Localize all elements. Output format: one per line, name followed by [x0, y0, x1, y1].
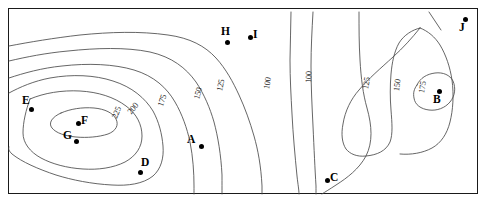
point-D-dot	[138, 170, 143, 175]
point-B-label: B	[433, 94, 441, 106]
point-G-label: G	[63, 130, 72, 142]
contour-100-valley-right	[311, 12, 316, 194]
point-J-label: J	[459, 22, 465, 34]
contour-map: 225 200 175 150 125 100 100 125 150 175 …	[0, 0, 487, 209]
point-E-dot	[29, 107, 34, 112]
contour-label-125-east: 125	[360, 76, 372, 89]
contour-125-right	[322, 12, 371, 194]
point-G-dot	[74, 139, 79, 144]
point-F-label: F	[81, 115, 88, 127]
contour-200-left	[23, 91, 142, 169]
point-H-label: H	[221, 26, 230, 38]
point-C-label: C	[330, 172, 338, 184]
point-A-label: A	[187, 134, 195, 146]
contour-150-left	[9, 64, 194, 194]
contour-lines-group	[0, 0, 487, 209]
point-D-label: D	[141, 157, 149, 169]
point-E-label: E	[22, 95, 30, 107]
contour-150-right	[342, 28, 420, 156]
point-A-dot	[199, 144, 204, 149]
contour-100-left	[9, 32, 262, 194]
contour-label-175-east: 175	[416, 80, 428, 93]
contour-100-valley-left	[290, 12, 299, 194]
point-I-label: I	[253, 29, 257, 41]
contour-label-100-mid: 100	[303, 71, 313, 83]
contour-125-left	[9, 49, 222, 195]
contour-label-100-west: 100	[261, 76, 273, 89]
contour-150-right-flank	[400, 28, 453, 154]
contour-upper-right-arc	[429, 12, 441, 30]
point-H-dot	[225, 40, 230, 45]
contour-label-150-east: 150	[391, 79, 403, 92]
